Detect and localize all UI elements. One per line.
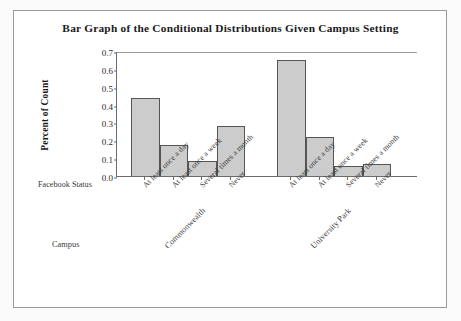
y-axis-tick-mark	[114, 142, 117, 143]
chart-figure: Bar Graph of the Conditional Distributio…	[0, 0, 461, 321]
facebook-status-axis-caption: Facebook Status	[38, 180, 92, 189]
y-axis-tick-mark	[114, 53, 117, 54]
y-axis-tick-mark	[114, 178, 117, 179]
y-axis-title: Percent of Count	[40, 60, 54, 170]
chart-title: Bar Graph of the Conditional Distributio…	[0, 22, 461, 34]
y-axis-tick-mark	[114, 88, 117, 89]
bar	[131, 98, 160, 177]
y-axis-tick-mark	[114, 70, 117, 71]
bar	[277, 60, 306, 177]
y-axis-tick-mark	[114, 124, 117, 125]
campus-axis-caption: Campus	[52, 240, 79, 249]
y-axis-tick-mark	[114, 160, 117, 161]
x-axis-baseline	[116, 176, 417, 177]
y-axis-tick-mark	[114, 106, 117, 107]
